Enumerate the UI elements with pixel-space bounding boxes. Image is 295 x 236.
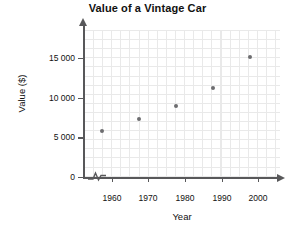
y-axis-line [83,25,85,178]
y-axis-arrowhead-icon [79,18,87,26]
y-axis-label-10000: 10 000 [28,93,75,103]
y-axis-label-0: 0 [28,172,75,182]
x-axis-label-1970: 1970 [131,193,165,203]
x-axis-arrowhead-icon [277,174,285,182]
x-axis-label-1960: 1960 [95,193,129,203]
x-axis-label-1980: 1980 [168,193,202,203]
y-tick-5000 [78,137,84,138]
x-axis-title: Year [84,211,280,222]
x-axis-label-2000: 2000 [241,193,275,203]
x-tick-1980 [185,177,186,182]
chart-title: Value of a Vintage Car [0,2,295,14]
x-axis-label-1990: 1990 [205,193,239,203]
x-tick-2000 [258,177,259,182]
x-tick-1970 [148,177,149,182]
y-tick-0 [78,177,84,178]
y-axis-title: Value ($) [16,44,27,144]
x-tick-1990 [222,177,223,182]
chart-figure: Value of a Vintage Car 0 5 000 10 000 15… [0,0,295,236]
y-axis-label-15000: 15 000 [28,53,75,63]
x-tick-1960 [112,177,113,182]
plot-area [84,30,280,177]
y-tick-15000 [78,58,84,59]
y-axis-label-5000: 5 000 [28,132,75,142]
y-tick-10000 [78,98,84,99]
axis-break-icon [88,170,106,182]
